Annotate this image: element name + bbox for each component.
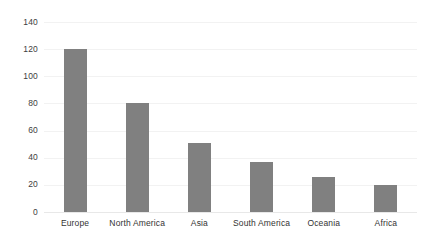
x-tick-label: Oceania xyxy=(307,218,340,228)
y-tick-label: 40 xyxy=(4,153,38,162)
x-tick-label: Asia xyxy=(191,218,208,228)
bar xyxy=(64,49,87,212)
axis-baseline xyxy=(44,212,417,213)
x-tick-label: North America xyxy=(109,218,165,228)
bar xyxy=(312,177,335,212)
y-tick-label: 100 xyxy=(4,72,38,81)
y-tick-label: 140 xyxy=(4,18,38,27)
y-tick-label: 0 xyxy=(4,208,38,217)
x-axis: EuropeNorth AmericaAsiaSouth AmericaOcea… xyxy=(44,218,417,234)
bar xyxy=(188,143,211,212)
bars-layer xyxy=(44,22,417,212)
x-tick-label: South America xyxy=(233,218,290,228)
y-tick-label: 80 xyxy=(4,99,38,108)
x-tick-label: Africa xyxy=(375,218,398,228)
x-tick-label: Europe xyxy=(61,218,89,228)
bar xyxy=(374,185,397,212)
y-tick-label: 120 xyxy=(4,45,38,54)
bar xyxy=(250,162,273,212)
y-tick-label: 20 xyxy=(4,180,38,189)
bar xyxy=(126,103,149,212)
bar-chart: 020406080100120140 EuropeNorth AmericaAs… xyxy=(0,0,427,241)
y-tick-label: 60 xyxy=(4,126,38,135)
y-axis: 020406080100120140 xyxy=(0,22,38,212)
